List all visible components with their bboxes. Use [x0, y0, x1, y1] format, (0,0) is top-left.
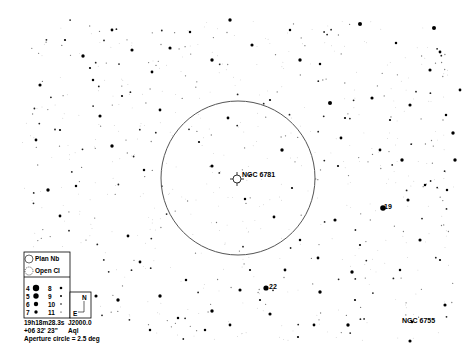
star [319, 63, 322, 66]
legend-open-cl: Open Cl [35, 267, 60, 275]
star [300, 126, 301, 127]
star [37, 164, 38, 165]
star [95, 182, 96, 183]
star [157, 312, 158, 313]
star [243, 263, 244, 264]
star [219, 230, 220, 231]
star [342, 21, 343, 22]
star [364, 41, 365, 42]
star [204, 26, 205, 27]
star [104, 80, 105, 81]
star [387, 138, 388, 139]
star [198, 313, 199, 314]
star [111, 29, 114, 32]
star [428, 68, 431, 71]
star [185, 199, 186, 200]
star [445, 114, 448, 117]
star [79, 211, 80, 212]
star [279, 258, 280, 259]
star [40, 191, 41, 192]
star [317, 80, 319, 82]
star [404, 111, 405, 112]
star [153, 260, 154, 261]
star [397, 74, 398, 75]
star [344, 46, 345, 47]
star [344, 82, 345, 83]
star [140, 126, 141, 127]
star [223, 269, 224, 270]
star [160, 303, 161, 304]
star [89, 235, 90, 236]
star [184, 317, 186, 319]
star [317, 179, 318, 180]
star [324, 42, 325, 43]
star [350, 270, 353, 273]
star [214, 339, 215, 340]
star [441, 225, 442, 226]
star [98, 66, 99, 67]
star [388, 179, 389, 180]
star [345, 167, 346, 168]
star [166, 65, 167, 66]
star [376, 271, 377, 272]
star [224, 244, 225, 245]
star [257, 113, 258, 114]
star [125, 139, 126, 140]
star [287, 33, 288, 34]
star-label-19: 19 [384, 203, 392, 210]
star [330, 29, 332, 31]
star [372, 292, 374, 294]
star [297, 324, 299, 326]
star [118, 104, 119, 105]
star [33, 246, 34, 247]
star [281, 86, 282, 87]
target-label: NGC 6781 [242, 171, 275, 178]
star [375, 210, 376, 211]
star [259, 299, 261, 301]
star [359, 248, 360, 249]
star [141, 123, 142, 124]
star [243, 259, 244, 260]
star [358, 157, 359, 158]
star [393, 278, 395, 280]
mag-dot-5 [33, 293, 38, 298]
star [24, 188, 25, 189]
star [342, 259, 343, 260]
star [423, 186, 424, 187]
star [269, 199, 270, 200]
star [177, 335, 178, 336]
mag-dot-8 [60, 287, 63, 290]
star [228, 18, 231, 21]
star [288, 51, 289, 52]
star [190, 53, 191, 54]
star [304, 107, 305, 108]
star [191, 126, 192, 127]
star [127, 235, 130, 238]
star [395, 42, 398, 45]
star [400, 158, 403, 161]
star [182, 56, 183, 57]
star [421, 55, 422, 56]
star [121, 79, 122, 80]
star [349, 24, 350, 25]
epoch-value: J2000.0 [68, 319, 92, 326]
star [92, 79, 95, 82]
star [301, 37, 302, 38]
mag-dot-7 [34, 310, 37, 313]
star [334, 51, 335, 52]
star [325, 78, 326, 79]
star [445, 247, 446, 248]
star [112, 295, 113, 296]
star [372, 154, 373, 155]
star [176, 166, 177, 167]
mag-label-5: 5 [26, 293, 30, 300]
star [91, 33, 92, 34]
star [443, 97, 444, 98]
star [413, 314, 414, 315]
star [196, 330, 197, 331]
star [291, 187, 293, 189]
star [370, 269, 371, 270]
star [61, 45, 62, 46]
star [401, 81, 402, 82]
star [259, 293, 260, 294]
